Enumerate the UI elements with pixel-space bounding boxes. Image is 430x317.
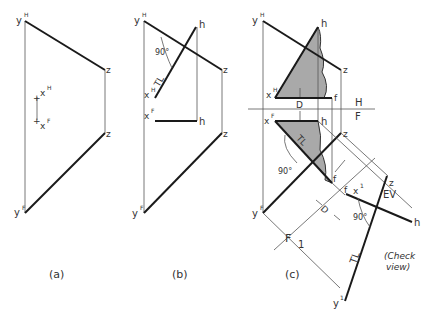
label-yF: y [252,208,258,219]
caption-c: (c) [285,268,300,281]
label-y1: y [333,298,339,309]
label-z: z [223,129,228,139]
dimension-D-label: D [319,204,331,216]
label-xF: x [264,116,270,126]
projector-line [263,213,340,288]
label-xF-sup: F [47,117,51,124]
label-xF-sup: F [151,107,155,114]
label-yH-sup: H [142,11,147,18]
label-yH-sup: H [24,11,29,18]
line-yz-front-view [144,133,222,213]
check-view-note-line1: (Check [384,251,416,261]
label-z: z [106,65,111,75]
angle-90-label: 90° [278,167,292,176]
label-H: H [355,97,363,108]
label-z: z [343,65,348,75]
label-yF-sup: F [260,204,264,211]
label-h: h [199,116,205,127]
dimension-extension [335,160,345,172]
panel-b: 90° TL y H y F z z h h x H x F (b) [132,11,228,281]
angle-90-label: 90° [353,213,367,222]
label-yH: y [134,15,140,26]
caption-b: (b) [172,268,188,281]
projector-line [341,133,388,176]
descriptive-geometry-figure: y H y F z z + x H + x F (a) 90° TL y H y… [0,0,430,317]
label-xH: x [144,90,150,100]
label-xF: x [40,121,46,131]
label-F-fold: F [285,232,291,245]
label-f: f [344,185,348,195]
label-x1: x [353,186,359,196]
label-x1-sup: 1 [360,182,364,189]
plane-top-view [275,27,327,98]
label-xF-sup: F [271,112,275,119]
label-f: f [334,93,338,103]
dimension-D-label: D [296,100,303,110]
panel-c: H F D F 1 D 90° 90° TL [248,11,420,309]
label-yF: y [132,208,138,219]
label-xH-sup: H [273,86,278,93]
label-xH-sup: H [47,84,52,91]
label-z: z [343,129,348,139]
ev-label: EV [383,189,396,200]
line-yz-top-view [25,21,105,70]
line-yz-top-view [144,21,222,70]
label-xH-sup: H [151,86,156,93]
label-yF-sup: F [22,204,26,211]
label-F: F [355,111,361,122]
label-z: z [106,129,111,139]
label-yF-sup: F [140,204,144,211]
dimension-arrow [334,215,340,220]
panel-a: y H y F z z + x H + x F (a) [14,11,111,281]
label-z: z [223,65,228,75]
label-f: f [333,174,337,184]
label-h: h [199,19,205,30]
label-yH: y [16,15,22,26]
label-h: h [321,116,327,127]
label-1-fold: 1 [298,239,304,250]
line-yz-true-length [345,176,387,301]
angle-90-label: 90° [155,48,169,57]
line-yz-front-view [25,133,105,213]
check-view-note-line2: view) [386,262,410,272]
label-yH-sup: H [260,11,265,18]
label-h: h [321,18,327,29]
tl-label: TL [347,250,362,266]
label-h: h [414,217,420,228]
label-yF: y [14,207,20,218]
label-xF: x [144,111,150,121]
label-y1-sup: 1 [340,294,344,301]
figure-canvas: y H y F z z + x H + x F (a) 90° TL y H y… [0,0,430,317]
dimension-arrow [316,200,322,205]
label-xH: x [266,90,272,100]
caption-a: (a) [49,268,64,281]
label-yH: y [252,15,258,26]
label-xH: x [40,88,46,98]
label-z: z [389,178,394,188]
